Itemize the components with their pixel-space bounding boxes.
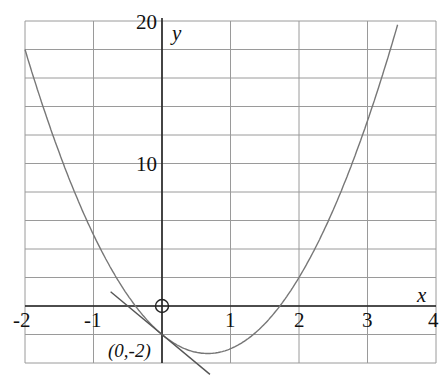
point-annotation: (0,-2) (108, 340, 151, 362)
x-tick-1: 1 (225, 308, 236, 332)
x-tick--2: -2 (13, 308, 31, 332)
tangent-line (111, 292, 210, 375)
x-tick--1: -1 (84, 308, 102, 332)
x-tick-2: 2 (294, 308, 305, 332)
y-axis-label: y (170, 21, 182, 45)
x-tick-3: 3 (362, 308, 373, 332)
y-tick-10: 10 (136, 152, 157, 176)
x-tick-4: 4 (428, 308, 439, 332)
y-tick-20: 20 (136, 10, 157, 34)
chart-canvas: -2 -1 1 2 3 4 10 20 x y (0,-2) (0, 0, 448, 382)
x-axis-label: x (416, 283, 427, 307)
parabola-curve (25, 25, 398, 354)
